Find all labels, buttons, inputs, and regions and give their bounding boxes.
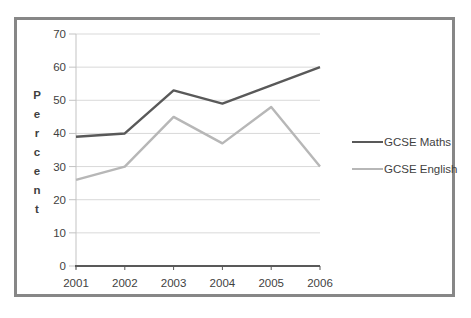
x-tick-label: 2001	[63, 277, 89, 289]
series-line-gcse-english	[76, 107, 320, 180]
x-tick-label: 2005	[258, 277, 284, 289]
series-line-gcse-maths	[76, 67, 320, 137]
x-tick-label: 2004	[210, 277, 236, 289]
y-axis-title-letter: r	[35, 127, 40, 139]
y-axis-title-letter: P	[33, 89, 41, 101]
y-tick-label: 30	[53, 161, 66, 173]
legend: GCSE Maths GCSE English	[352, 128, 458, 182]
legend-line-swatch-maths	[352, 141, 383, 143]
y-tick-label: 50	[53, 94, 66, 106]
x-tick-label: 2006	[307, 277, 333, 289]
chart-canvas: 010203040506070200120022003200420052006P…	[0, 0, 471, 318]
y-axis-title-letter: t	[35, 203, 39, 215]
y-axis-title-letter: e	[34, 108, 40, 120]
legend-label-maths: GCSE Maths	[384, 136, 451, 148]
x-tick-label: 2003	[161, 277, 187, 289]
legend-label-english: GCSE English	[384, 163, 458, 175]
y-axis-title-letter: n	[33, 184, 40, 196]
y-tick-label: 70	[53, 28, 66, 40]
y-tick-label: 10	[53, 227, 66, 239]
legend-line-swatch-english	[352, 168, 383, 170]
y-tick-label: 40	[53, 127, 66, 139]
x-tick-label: 2002	[112, 277, 138, 289]
y-axis-title-letter: e	[34, 165, 40, 177]
y-tick-label: 60	[53, 61, 66, 73]
legend-item-gcse-maths: GCSE Maths	[352, 128, 458, 155]
y-axis-title-letter: c	[34, 146, 41, 158]
y-tick-label: 0	[60, 260, 66, 272]
legend-item-gcse-english: GCSE English	[352, 155, 458, 182]
y-tick-label: 20	[53, 194, 66, 206]
